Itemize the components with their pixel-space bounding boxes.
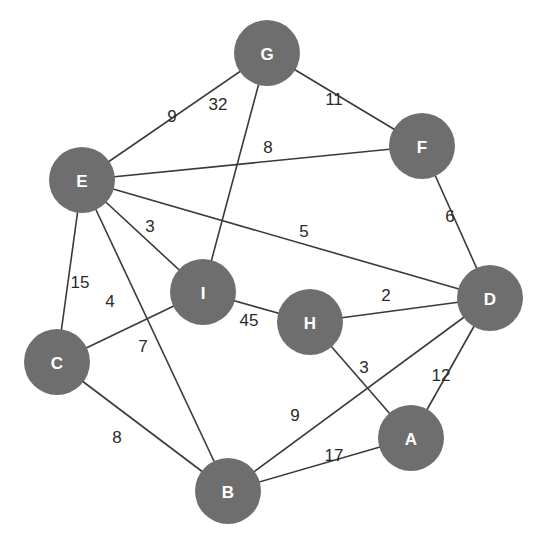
edge-weight-c-b: 8 [112,428,121,447]
node-d: D [457,265,523,331]
node-label: H [304,314,316,333]
edge-weight-b-d: 9 [290,406,299,425]
node-label: A [405,430,417,449]
node-h: H [277,289,343,355]
edge-weight-e-g: 9 [167,107,176,126]
weighted-graph-diagram: 93211863515474523129817 GFEIHDCBA [0,0,548,551]
edge-weight-h-d: 2 [381,286,390,305]
node-b: B [195,458,261,524]
node-label: F [417,138,427,157]
edge-weight-d-a: 12 [432,366,451,385]
edge-e-b [82,180,228,491]
node-label: D [484,290,496,309]
edge-g-i [203,53,267,292]
edge-weight-h-a: 3 [359,358,368,377]
node-c: C [24,329,90,395]
edge-weight-e-b: 7 [138,337,147,356]
edge-e-f [82,146,422,180]
node-label: E [76,172,87,191]
edge-e-d [82,180,490,298]
node-f: F [389,113,455,179]
edge-weight-i-h: 45 [240,311,259,330]
edge-weight-e-d: 5 [299,222,308,241]
edge-weight-c-i: 4 [105,292,114,311]
edge-weight-e-i: 3 [145,217,154,236]
node-label: C [51,354,63,373]
nodes-layer: GFEIHDCBA [24,20,523,524]
edge-weight-f-d: 6 [445,207,454,226]
edge-weight-g-f: 11 [325,90,343,109]
node-a: A [378,405,444,471]
node-label: I [201,284,206,303]
edge-weight-e-f: 8 [263,138,272,157]
node-label: B [222,483,234,502]
node-label: G [260,45,273,64]
edge-weight-g-i: 32 [209,95,228,114]
node-i: I [170,259,236,325]
node-e: E [49,147,115,213]
edge-weight-e-c: 15 [71,273,90,292]
edge-b-d [228,298,490,491]
node-g: G [234,20,300,86]
edge-weight-b-a: 17 [325,446,344,465]
